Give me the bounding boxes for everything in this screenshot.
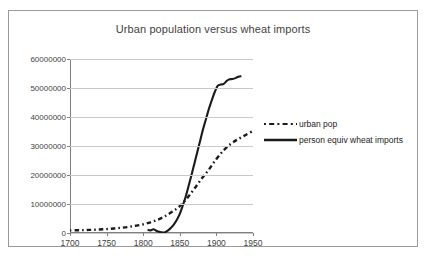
x-tick-mark: [253, 233, 254, 236]
x-tick-label: 1950: [244, 238, 263, 248]
gridline: [70, 146, 253, 147]
gridline: [70, 59, 253, 60]
chart-frame: Urban population versus wheat imports 01…: [8, 10, 418, 247]
gridline: [70, 204, 253, 205]
gridline: [70, 233, 253, 234]
legend-item-wheat-imports: person equiv wheat imports: [264, 133, 422, 147]
chart-legend: urban pop person equiv wheat imports: [264, 117, 422, 149]
y-tick-mark: [67, 117, 70, 118]
x-tick-label: 1800: [134, 238, 153, 248]
legend-label-urban-pop: urban pop: [297, 119, 337, 129]
y-tick-label: 60000000: [30, 55, 70, 64]
chart-screenshot: Urban population versus wheat imports 01…: [0, 0, 427, 258]
chart-title: Urban population versus wheat imports: [9, 23, 417, 35]
legend-label-wheat-imports: person equiv wheat imports: [297, 135, 403, 145]
y-tick-mark: [67, 204, 70, 205]
x-tick-mark: [70, 233, 71, 236]
legend-swatch-dash-dot-icon: [264, 119, 297, 129]
plot-area: 0100000002000000030000000400000005000000…: [62, 49, 254, 234]
plot-inner: 0100000002000000030000000400000005000000…: [70, 59, 253, 233]
x-tick-label: 1900: [207, 238, 226, 248]
legend-swatch-solid-icon: [264, 135, 297, 145]
legend-item-urban-pop: urban pop: [264, 117, 422, 131]
x-tick-label: 1750: [97, 238, 116, 248]
x-tick-label: 1850: [170, 238, 189, 248]
y-tick-mark: [67, 88, 70, 89]
gridline: [70, 88, 253, 89]
y-tick-label: 30000000: [30, 142, 70, 151]
y-tick-label: 40000000: [30, 113, 70, 122]
y-tick-mark: [67, 175, 70, 176]
x-tick-mark: [107, 233, 108, 236]
y-tick-mark: [67, 59, 70, 60]
x-tick-label: 1700: [61, 238, 80, 248]
series-line-2: [148, 76, 242, 232]
x-tick-mark: [143, 233, 144, 236]
y-tick-label: 50000000: [30, 84, 70, 93]
gridline: [70, 175, 253, 176]
gridline: [70, 117, 253, 118]
y-tick-label: 20000000: [30, 171, 70, 180]
y-tick-label: 10000000: [30, 200, 70, 209]
x-tick-mark: [216, 233, 217, 236]
y-tick-mark: [67, 146, 70, 147]
x-tick-mark: [180, 233, 181, 236]
